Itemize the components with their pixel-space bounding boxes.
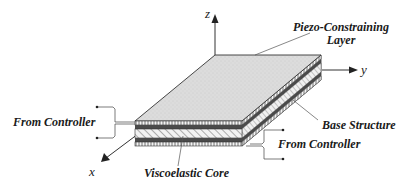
x-axis-label: x: [89, 165, 95, 178]
z-axis: [212, 14, 219, 55]
front-face: [135, 121, 242, 146]
viscoelastic-core-label: Viscoelastic Core: [144, 167, 229, 180]
base-structure-label: Base Structure: [322, 119, 396, 132]
sandwich-beam-diagram: z y x Piezo-Constraining Layer Base Stru…: [0, 0, 407, 190]
base-structure-leader-line: [293, 100, 318, 120]
left-controller-wires: [96, 106, 135, 140]
from-controller-right-label: From Controller: [278, 138, 360, 151]
piezo-label-line2: Layer: [286, 34, 396, 47]
z-axis-label: z: [205, 7, 210, 20]
y-axis-label: y: [361, 63, 367, 76]
y-axis: [322, 67, 358, 74]
from-controller-left-label: From Controller: [13, 116, 95, 129]
piezo-constraining-layer-label: Piezo-Constraining Layer: [286, 21, 396, 47]
